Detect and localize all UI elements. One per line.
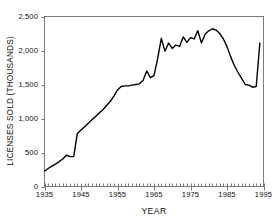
axis-major-ticks [42,18,265,191]
x-axis-title: YEAR [44,206,264,216]
plot-frame [45,17,264,187]
data-series-line [45,29,260,171]
plot-area [0,0,277,222]
chart-figure: LICENSES SOLD (THOUSANDS) 05001,0001,500… [0,0,277,222]
